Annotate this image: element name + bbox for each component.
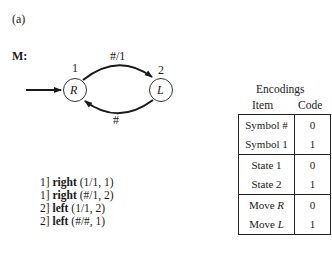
instruction-line: 1] right (1/1, 1) xyxy=(40,176,113,189)
transition-1-to-2-label: #/1 xyxy=(110,49,125,64)
header-code: Code xyxy=(298,99,322,111)
transition-2-to-1-arrow xyxy=(85,100,153,113)
header-item: Item xyxy=(252,99,273,111)
state-2-number: 2 xyxy=(158,63,164,78)
table-row: State 21 xyxy=(239,175,331,195)
encodings-table: Symbol #0 Symbol 11 State 10 State 21 Mo… xyxy=(238,114,331,235)
instruction-line: 2] left (#/#, 1) xyxy=(40,215,113,228)
table-row: Symbol 11 xyxy=(239,135,331,155)
table-row: Move R0 xyxy=(239,195,331,215)
instruction-line: 2] left (1/1, 2) xyxy=(40,202,113,215)
instruction-line: 1] right (#/1, 2) xyxy=(40,189,113,202)
table-row: Symbol #0 xyxy=(239,115,331,135)
encodings-title: Encodings xyxy=(256,83,305,95)
instruction-list: 1] right (1/1, 1) 1] right (#/1, 2) 2] l… xyxy=(40,176,113,228)
table-row: State 10 xyxy=(239,155,331,175)
state-1-symbol: R xyxy=(70,83,77,98)
state-1-number: 1 xyxy=(72,61,78,76)
table-row: Move L1 xyxy=(239,215,331,235)
transition-1-to-2-arrow xyxy=(83,65,152,80)
state-2-symbol: L xyxy=(157,83,164,98)
transition-2-to-1-label: # xyxy=(113,113,119,128)
